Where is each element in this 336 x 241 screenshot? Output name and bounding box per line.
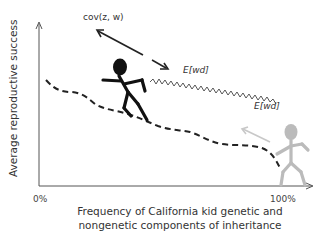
- x-tick-100: 100%: [270, 194, 296, 204]
- cov-label: cov(z, w): [83, 12, 124, 22]
- light-stick-figure: [277, 124, 308, 185]
- x-axis-label-line2: nongenetic components of inheritance: [60, 218, 300, 232]
- cov-arrow: [97, 30, 143, 55]
- ewd-label-gray: E[wd]: [254, 101, 280, 111]
- y-axis-label: Average reproductive success: [7, 27, 19, 177]
- x-axis-label: Frequency of California kid genetic and …: [60, 204, 300, 232]
- ewd-gray-arrow: [242, 127, 270, 142]
- ewd-black-arrow: [152, 60, 168, 69]
- x-tick-0: 0%: [33, 194, 47, 204]
- dark-stick-figure: [103, 59, 147, 121]
- ewd-label-black: E[wd]: [183, 65, 209, 75]
- x-axis-label-line1: Frequency of California kid genetic and: [60, 204, 300, 218]
- dashed-fitness-curve: [46, 80, 280, 168]
